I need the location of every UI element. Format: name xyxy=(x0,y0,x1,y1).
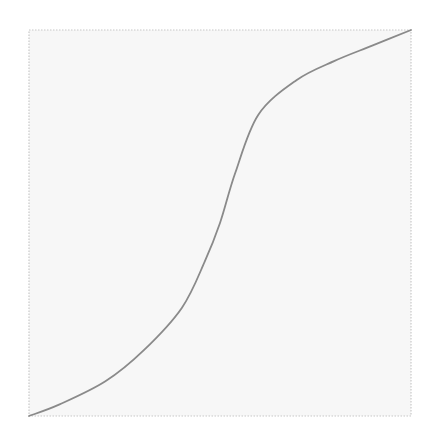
chart-canvas xyxy=(0,0,432,446)
